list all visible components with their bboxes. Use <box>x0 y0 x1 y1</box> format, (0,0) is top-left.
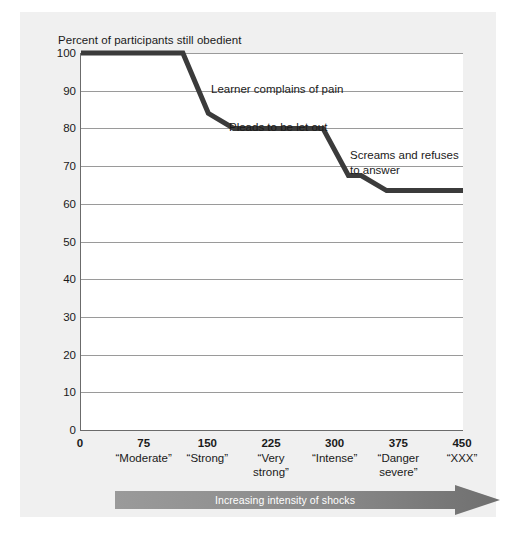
chart-annotation: Learner complains of pain <box>211 82 343 97</box>
obedience-line-series <box>81 53 463 430</box>
plot-area <box>80 53 463 431</box>
figure-panel: Percent of participants still obedient 0… <box>20 12 496 517</box>
y-axis-title: Percent of participants still obedient <box>58 34 241 46</box>
y-tick-label: 30 <box>42 311 76 323</box>
y-tick-label: 80 <box>42 122 76 134</box>
y-axis-tick-labels: 0102030405060708090100 <box>36 53 76 430</box>
arrow-label: Increasing intensity of shocks <box>115 485 455 515</box>
increasing-intensity-arrow: Increasing intensity of shocks <box>115 485 500 515</box>
y-tick-label: 20 <box>42 349 76 361</box>
x-tick-value: 450 <box>417 436 507 451</box>
y-tick-label: 40 <box>42 273 76 285</box>
y-tick-label: 70 <box>42 160 76 172</box>
chart-annotation: Screams and refuses to answer <box>350 148 459 177</box>
y-tick-label: 0 <box>42 424 76 436</box>
y-tick-label: 60 <box>42 198 76 210</box>
y-tick-label: 10 <box>42 386 76 398</box>
chart-annotation: Pleads to be let out <box>229 120 327 135</box>
y-tick-label: 50 <box>42 236 76 248</box>
x-tick-group: 450“XXX” <box>417 436 507 465</box>
y-tick-label: 100 <box>42 47 76 59</box>
y-tick-label: 90 <box>42 85 76 97</box>
x-tick-caption: “XXX” <box>417 451 507 465</box>
